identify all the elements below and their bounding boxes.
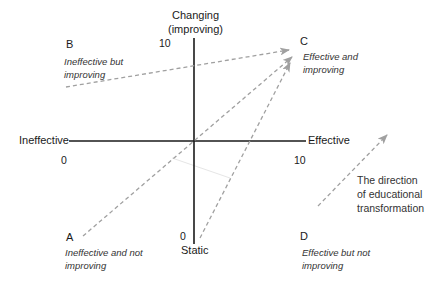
arrow-a-to-c	[83, 57, 292, 236]
quadrant-d-letter: D	[300, 230, 308, 242]
y-axis-top-label-sub: (improving)	[168, 23, 223, 35]
arrow-static-to-c	[200, 63, 290, 238]
quadrant-c-description: Effective and improving	[303, 50, 358, 76]
quadrant-d-desc-line2: improving	[302, 259, 370, 272]
quadrant-a-desc-line1: Ineffective and not	[65, 246, 143, 259]
y-max-tick: 10	[159, 37, 171, 49]
y-axis-top-label: Changing	[172, 9, 219, 21]
quadrant-d-desc-line1: Effective but not	[302, 246, 370, 259]
legend-line2: of educational	[357, 187, 424, 201]
quadrant-b-desc-line2: improving	[64, 68, 123, 81]
legend-text: The direction of educational transformat…	[357, 173, 424, 215]
faint-line	[172, 158, 230, 178]
quadrant-b-letter: B	[66, 38, 73, 50]
y-axis-bottom-label: Static	[181, 244, 209, 256]
quadrant-b-description: Ineffective but improving	[64, 55, 123, 81]
legend-line3: transformation	[357, 201, 424, 215]
quadrant-a-desc-line2: improving	[65, 259, 143, 272]
quadrant-a-description: Ineffective and not improving	[65, 246, 143, 272]
y-min-tick: 0	[180, 230, 186, 242]
quadrant-c-desc-line1: Effective and	[303, 50, 358, 63]
legend-line1: The direction	[357, 173, 424, 187]
quadrant-c-letter: C	[300, 35, 308, 47]
x-min-tick: 0	[61, 154, 67, 166]
x-max-tick: 10	[294, 154, 306, 166]
quadrant-b-desc-line1: Ineffective but	[64, 55, 123, 68]
quadrant-d-description: Effective but not improving	[302, 246, 370, 272]
quadrant-a-letter: A	[66, 231, 73, 243]
x-axis-right-label: Effective	[308, 134, 350, 146]
quadrant-c-desc-line2: improving	[303, 63, 358, 76]
x-axis-left-label: Ineffective	[19, 134, 69, 146]
